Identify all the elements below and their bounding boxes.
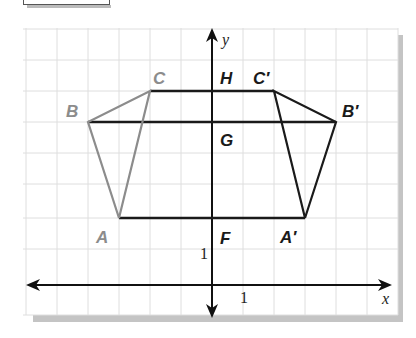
label-C: C — [153, 69, 166, 88]
x-axis-label: x — [381, 290, 389, 307]
label-A-prime: A′ — [279, 228, 297, 247]
coordinate-plane-figure: A B C A′ B′ C′ H G F y x 1 1 — [0, 0, 416, 338]
y-unit-label: 1 — [200, 245, 208, 262]
label-H: H — [220, 69, 233, 88]
grid-panel — [23, 28, 398, 315]
x-unit-label: 1 — [240, 289, 248, 306]
label-G: G — [220, 131, 233, 150]
label-F: F — [220, 229, 231, 248]
label-A: A — [95, 228, 108, 247]
y-axis-label: y — [220, 31, 230, 49]
label-C-prime: C′ — [253, 69, 270, 88]
label-B-prime: B′ — [342, 102, 359, 121]
label-B: B — [66, 102, 78, 121]
panel-shadow-bottom — [33, 315, 403, 322]
